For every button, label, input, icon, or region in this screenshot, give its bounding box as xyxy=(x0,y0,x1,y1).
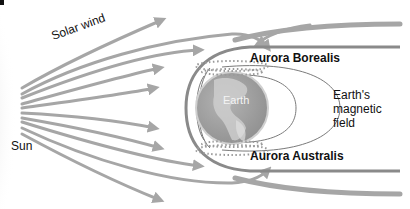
earth xyxy=(196,72,268,144)
aurora-australis-label: Aurora Australis xyxy=(250,150,344,162)
sun xyxy=(0,10,35,209)
corner-marker xyxy=(0,0,4,5)
magnetic-field-label: Earth's magnetic field xyxy=(333,88,382,130)
sun-label: Sun xyxy=(11,140,32,152)
aurora-borealis-label: Aurora Borealis xyxy=(250,52,340,64)
earth-label: Earth xyxy=(223,95,249,106)
